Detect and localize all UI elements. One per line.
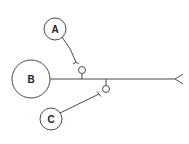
neuron-c-label: C — [47, 114, 54, 125]
lower-synaptic-bouton-icon — [103, 86, 110, 93]
upper-synaptic-bouton-icon — [79, 67, 86, 74]
neuron-c: C — [40, 92, 101, 131]
neuron-a-label: A — [51, 24, 58, 35]
neuron-c-axon-terminal-icon — [97, 92, 101, 97]
neuron-a: A — [44, 18, 79, 64]
neuron-b-label: B — [27, 74, 34, 85]
neuron-diagram: A B C — [0, 0, 189, 144]
neuron-a-axon-terminal-icon — [73, 62, 79, 64]
neuron-b-axon-terminal-fork-icon — [175, 74, 183, 84]
neuron-a-axon — [62, 37, 76, 62]
neuron-c-axon — [60, 94, 99, 113]
